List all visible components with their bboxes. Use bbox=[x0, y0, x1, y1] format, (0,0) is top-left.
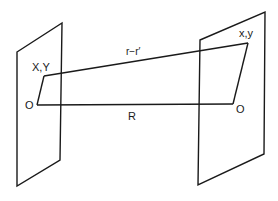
left-point-label: X,Y bbox=[32, 61, 50, 73]
baseline-R-line bbox=[37, 104, 233, 105]
left-origin-label: O bbox=[25, 99, 34, 111]
baseline-label: R bbox=[128, 110, 136, 122]
separation-vector-line bbox=[44, 43, 248, 76]
right-point-label: x,y bbox=[239, 27, 254, 39]
right-origin-label: O bbox=[236, 103, 245, 115]
separation-vector-label: r−r′ bbox=[126, 46, 141, 57]
two-plane-geometry-diagram: X,Y O r−r′ R x,y O bbox=[0, 0, 278, 201]
right-point-to-origin-segment bbox=[233, 43, 248, 104]
left-origin-to-point-segment bbox=[37, 76, 44, 105]
right-plane bbox=[198, 12, 265, 185]
